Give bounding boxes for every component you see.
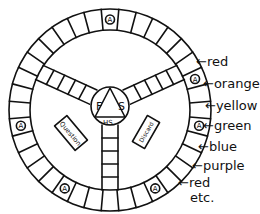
svg-text:A: A	[62, 185, 67, 193]
color-label-yellow: ←yellow	[205, 99, 257, 112]
color-label-blue: ←blue	[198, 140, 237, 153]
center-label-hs: HS	[103, 119, 113, 127]
arrow-left-icon: ←	[178, 175, 189, 190]
color-label-purple: ←purple	[192, 159, 245, 172]
color-label-red-2: ←red	[178, 176, 210, 189]
center-label-f: F	[96, 100, 102, 113]
arrow-left-icon: ←	[196, 54, 207, 69]
discard-card: Discard	[132, 116, 159, 149]
arrow-left-icon: ←	[198, 139, 209, 154]
question-card: Question	[55, 116, 88, 151]
color-label-orange: ←orange	[203, 77, 260, 90]
arrow-left-icon: ←	[203, 118, 214, 133]
color-label-green: ←green	[203, 119, 251, 132]
color-label-etc: etc.	[190, 191, 214, 204]
svg-text:A: A	[197, 122, 202, 130]
svg-text:A: A	[108, 16, 113, 24]
arrow-left-icon: ←	[205, 98, 216, 113]
svg-text:A: A	[18, 122, 23, 130]
arrow-left-icon: ←	[192, 158, 203, 173]
center-label-s: S	[118, 100, 125, 113]
discard-card-label: Discard	[137, 120, 154, 143]
svg-text:A: A	[193, 76, 198, 84]
color-label-red: ←red	[196, 55, 228, 68]
arrow-left-icon: ←	[203, 76, 214, 91]
svg-text:A: A	[153, 185, 158, 193]
